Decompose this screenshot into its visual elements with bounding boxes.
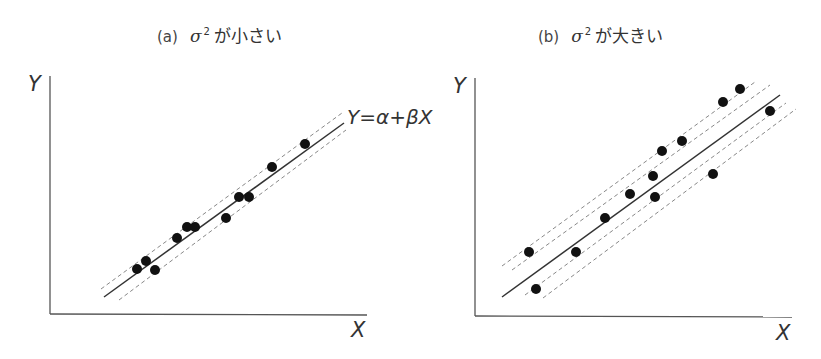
panel-b-band-outer-lower bbox=[543, 109, 796, 298]
panel-a-equation: Y=α+βX bbox=[347, 105, 434, 129]
figure-canvas: Y X Y=α+βX Y X bbox=[0, 0, 821, 359]
panel-b-x-label: X bbox=[775, 321, 791, 345]
panel-a-x-label: X bbox=[350, 318, 366, 342]
panel-a-plot: Y X Y=α+βX bbox=[28, 72, 434, 342]
panel-b-x-axis bbox=[475, 316, 792, 317]
panel-b-plot: Y X bbox=[453, 74, 796, 345]
panel-b-regression-line bbox=[502, 95, 780, 297]
panel-a-points bbox=[132, 139, 310, 275]
panel-b-y-label: Y bbox=[453, 74, 468, 98]
panel-a-y-label: Y bbox=[28, 72, 43, 96]
panel-b-band-inner-upper bbox=[512, 85, 770, 270]
panel-a-x-axis bbox=[50, 314, 367, 315]
